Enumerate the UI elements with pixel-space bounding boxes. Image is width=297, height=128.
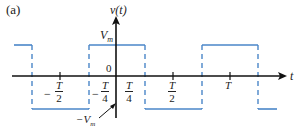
neg-vm-text: −V [76, 113, 90, 125]
neg-vm-label: −Vm [76, 114, 95, 128]
origin-label: 0 [106, 63, 112, 74]
y-axis-label: v(t) [110, 4, 127, 16]
vm-subscript: m [107, 35, 113, 44]
tick-denominator: 2 [56, 92, 62, 104]
waveform-transitions [32, 45, 258, 109]
tick-numerator: T [55, 80, 63, 92]
tick-neg-half-sign: − [44, 87, 51, 102]
tick-neg-quarter-sign: − [92, 87, 99, 102]
tick-numerator: T [101, 80, 109, 92]
tick-numerator: T [168, 80, 176, 92]
tick-label-period: T [225, 80, 231, 91]
vm-label: Vm [100, 29, 113, 44]
neg-vm-pointer [99, 106, 113, 118]
x-axis-label: t [290, 70, 293, 82]
tick-denominator: 4 [126, 92, 132, 104]
panel-label: (a) [6, 3, 20, 16]
neg-vm-subscript: m [90, 120, 95, 128]
tick-denominator: 4 [102, 92, 108, 104]
tick-numerator: T [125, 80, 133, 92]
axes [12, 22, 280, 118]
square-wave-diagram: (a) v(t) t Vm 0 −Vm − T 2 − T 4 T 4 T 2 … [0, 0, 297, 128]
tick-label-half-period: T 2 [168, 80, 176, 104]
tick-label-neg-quarter-period: T 4 [101, 80, 109, 104]
diagram-canvas [0, 0, 297, 128]
tick-denominator: 2 [169, 92, 175, 104]
tick-label-quarter-period: T 4 [125, 80, 133, 104]
tick-label-neg-half-period: T 2 [55, 80, 63, 104]
